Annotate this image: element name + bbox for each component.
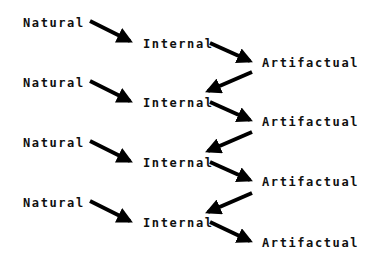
artifactual-label-1: Artifactual <box>262 57 359 69</box>
internal-label-2: Internal <box>143 97 214 109</box>
arrow-natural-to-internal-2 <box>90 81 130 101</box>
arrow-artifactual-to-internal-3 <box>208 193 252 212</box>
diagram-canvas: Natural Internal Artifactual Natural Int… <box>0 0 372 266</box>
arrow-natural-to-internal-3 <box>90 141 130 161</box>
artifactual-label-4: Artifactual <box>262 237 359 249</box>
arrow-artifactual-to-internal-2 <box>208 132 252 151</box>
arrow-natural-to-internal-1 <box>90 21 130 41</box>
arrow-internal-to-artifactual-2 <box>210 102 250 120</box>
natural-label-1: Natural <box>23 17 85 29</box>
arrow-internal-to-artifactual-1 <box>210 43 250 61</box>
artifactual-label-3: Artifactual <box>262 176 359 188</box>
natural-label-4: Natural <box>23 197 85 209</box>
natural-label-2: Natural <box>23 77 85 89</box>
arrow-artifactual-to-internal-1 <box>208 72 252 91</box>
natural-label-3: Natural <box>23 137 85 149</box>
internal-label-1: Internal <box>143 38 214 50</box>
artifactual-label-2: Artifactual <box>262 116 359 128</box>
internal-label-3: Internal <box>143 157 214 169</box>
arrow-natural-to-internal-4 <box>90 201 130 221</box>
arrow-internal-to-artifactual-4 <box>210 222 250 241</box>
internal-label-4: Internal <box>143 217 214 229</box>
arrow-internal-to-artifactual-3 <box>210 162 250 180</box>
